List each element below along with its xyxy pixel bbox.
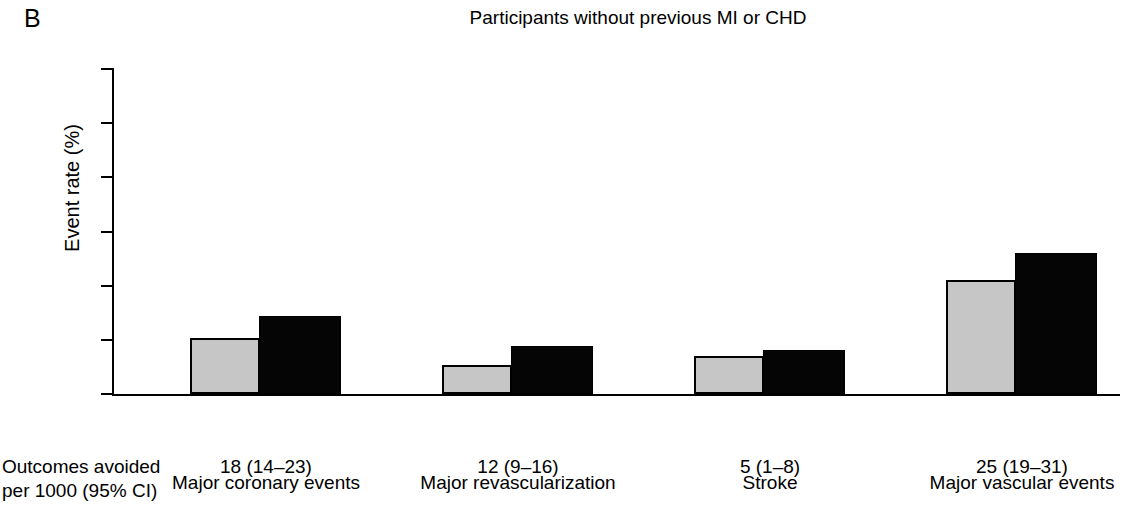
plot-area: Event rate (%) 30 25 20 15 10 5 0 Major … <box>112 68 1120 396</box>
y-tick-mark-10 <box>101 285 112 287</box>
outcomes-avoided-value-major-coronary-events: 18 (14–23) <box>140 455 392 479</box>
y-axis-line <box>112 68 114 396</box>
bar-gray-stroke <box>694 356 764 394</box>
y-tick-mark-0 <box>101 393 112 395</box>
chart-title: Participants without previous MI or CHD <box>0 7 1138 29</box>
bar-gray-major-vascular-events <box>946 280 1016 394</box>
y-tick-mark-30 <box>101 68 112 70</box>
bar-gray-major-coronary-events <box>190 338 260 394</box>
y-axis-title: Event rate (%) <box>62 124 82 252</box>
bar-black-major-coronary-events <box>259 316 341 394</box>
chart-figure: B Participants without previous MI or CH… <box>0 0 1138 506</box>
outcomes-avoided-label-line1: Outcomes avoided <box>2 455 160 479</box>
outcomes-avoided-value-major-vascular-events: 25 (19–31) <box>896 455 1138 479</box>
outcomes-avoided-value-major-revascularization: 12 (9–16) <box>392 455 644 479</box>
bar-black-major-vascular-events <box>1015 253 1097 394</box>
y-tick-mark-5 <box>101 339 112 341</box>
bar-black-stroke <box>763 350 845 395</box>
y-tick-mark-20 <box>101 176 112 178</box>
x-axis-line <box>112 394 1120 396</box>
y-tick-mark-15 <box>101 231 112 233</box>
outcomes-avoided-label-line2: per 1000 (95% CI) <box>2 479 160 503</box>
outcomes-avoided-label: Outcomes avoided per 1000 (95% CI) <box>2 455 160 503</box>
bar-black-major-revascularization <box>511 346 593 394</box>
y-tick-mark-25 <box>101 122 112 124</box>
outcomes-avoided-value-stroke: 5 (1–8) <box>644 455 896 479</box>
bar-gray-major-revascularization <box>442 365 512 394</box>
